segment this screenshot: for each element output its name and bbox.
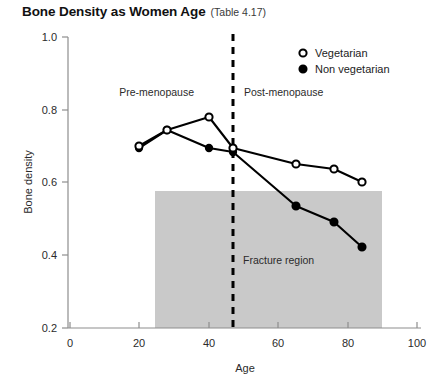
- data-point-vegetarian: [292, 160, 299, 167]
- y-tick-label-0.2: 0.2: [42, 322, 57, 334]
- y-tick-label-0.6: 0.6: [42, 176, 57, 188]
- data-point-non-vegetarian: [330, 218, 338, 226]
- y-tick-label-0.8: 0.8: [42, 104, 57, 116]
- legend-marker-vegetarian-icon: [299, 49, 306, 56]
- legend-label-vegetarian: Vegetarian: [315, 47, 368, 59]
- data-point-non-vegetarian: [358, 243, 366, 251]
- fracture-region-label: Fracture region: [243, 254, 314, 266]
- data-point-vegetarian: [229, 144, 236, 151]
- data-point-vegetarian: [330, 165, 337, 172]
- pre-menopause-label: Pre-menopause: [119, 86, 194, 98]
- x-tick-label-0: 0: [67, 337, 73, 349]
- data-point-vegetarian: [205, 113, 212, 120]
- chart-canvas: 1.0 0.8 0.6 0.4 0.2 0 20 40 60 80 100 Ag…: [0, 0, 439, 382]
- chart-legend: Vegetarian Non vegetarian: [299, 47, 389, 75]
- post-menopause-label: Post-menopause: [244, 86, 324, 98]
- legend-marker-non-vegetarian-icon: [299, 65, 307, 73]
- y-tick-label-0.4: 0.4: [42, 249, 57, 261]
- series-line-vegetarian: [139, 117, 362, 182]
- x-tick-label-100: 100: [408, 337, 426, 349]
- chart-figure: Bone Density as Women Age(Table 4.17) 1.…: [0, 0, 439, 382]
- data-point-non-vegetarian: [292, 202, 300, 210]
- data-point-non-vegetarian: [206, 145, 213, 152]
- x-axis-title: Age: [235, 362, 255, 374]
- data-point-vegetarian: [163, 126, 170, 133]
- legend-label-non-vegetarian: Non vegetarian: [315, 63, 390, 75]
- y-tick-label-1.0: 1.0: [42, 31, 57, 43]
- x-tick-label-60: 60: [272, 337, 284, 349]
- x-tick-label-20: 20: [133, 337, 145, 349]
- x-tick-label-40: 40: [203, 337, 215, 349]
- y-axis-title: Bone density: [22, 150, 34, 214]
- x-tick-label-80: 80: [342, 337, 354, 349]
- data-point-vegetarian: [135, 142, 142, 149]
- data-point-vegetarian: [358, 178, 365, 185]
